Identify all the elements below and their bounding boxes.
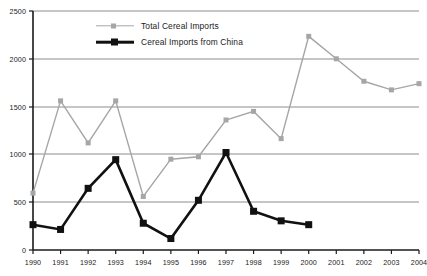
x-axis-tick-label-1996: 1996	[190, 258, 206, 267]
legend-item-cereal-imports-from-china: Cereal Imports from China	[96, 34, 243, 50]
data-point-1990	[30, 221, 37, 228]
chart-legend: Total Cereal Imports Cereal Imports from…	[96, 18, 243, 50]
x-axis-tick-label-1992: 1992	[80, 258, 96, 267]
data-point-1992	[85, 185, 92, 192]
data-point-1991	[57, 226, 64, 233]
x-axis-tick-label-2002: 2002	[356, 258, 372, 267]
data-point-1993	[112, 156, 119, 163]
legend-item-total-cereal-imports: Total Cereal Imports	[96, 18, 243, 34]
x-axis-tick-label-1990: 1990	[25, 258, 41, 267]
y-axis-tick-label-500: 500	[14, 198, 26, 207]
x-axis-tick-label-1994: 1994	[135, 258, 151, 267]
data-point-1994	[141, 194, 146, 199]
x-axis-tick-label-2004: 2004	[411, 258, 427, 267]
legend-label-total: Total Cereal Imports	[141, 21, 219, 31]
data-point-1997	[224, 117, 229, 122]
data-point-2000	[306, 34, 311, 39]
series-line-cereal-imports-from-china	[33, 152, 309, 238]
legend-swatch-china-icon	[96, 36, 134, 48]
y-axis-tick-label-1000: 1000	[10, 150, 26, 159]
y-axis-tick-label-1500: 1500	[10, 102, 26, 111]
y-axis-tick-label-0: 0	[22, 246, 26, 255]
x-axis-tick-label-2000: 2000	[301, 258, 317, 267]
series-markers-cereal-imports-from-china	[30, 149, 313, 242]
data-point-1991	[58, 98, 63, 103]
data-point-1994	[140, 220, 147, 227]
x-axis-tick-label-1999: 1999	[273, 258, 289, 267]
data-point-1998	[250, 208, 257, 215]
data-point-2000	[305, 221, 312, 228]
data-point-1996	[196, 154, 201, 159]
data-point-2003	[389, 87, 394, 92]
data-point-1995	[168, 157, 173, 162]
x-axis-tick-label-1997: 1997	[218, 258, 234, 267]
data-point-2004	[417, 81, 422, 86]
x-axis-tick-label-2003: 2003	[383, 258, 399, 267]
y-axis-tick-label-2000: 2000	[10, 54, 26, 63]
data-point-1998	[251, 109, 256, 114]
legend-swatch-total-icon	[96, 20, 134, 32]
data-point-1990	[31, 191, 36, 196]
data-point-1995	[167, 235, 174, 242]
data-point-1997	[223, 149, 230, 156]
x-axis-tick-label-2001: 2001	[328, 258, 344, 267]
data-point-1996	[195, 197, 202, 204]
x-axis-tick-label-1998: 1998	[245, 258, 261, 267]
x-axis-tick-label-1995: 1995	[163, 258, 179, 267]
x-axis-tick-label-1993: 1993	[108, 258, 124, 267]
series-line-total-cereal-imports	[33, 36, 419, 196]
data-point-1993	[113, 98, 118, 103]
data-point-2002	[361, 79, 366, 84]
data-point-1999	[278, 217, 285, 224]
data-point-1999	[279, 136, 284, 141]
legend-label-china: Cereal Imports from China	[141, 37, 243, 47]
x-axis-tick-label-1991: 1991	[52, 258, 68, 267]
y-axis-tick-label-2500: 2500	[10, 7, 26, 16]
data-point-2001	[334, 56, 339, 61]
data-point-1992	[86, 140, 91, 145]
